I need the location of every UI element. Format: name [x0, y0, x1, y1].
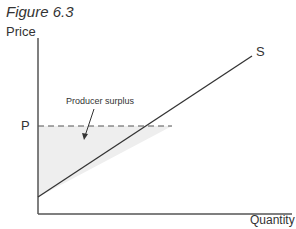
producer-surplus-area [38, 126, 172, 197]
chart-plot [0, 0, 296, 229]
